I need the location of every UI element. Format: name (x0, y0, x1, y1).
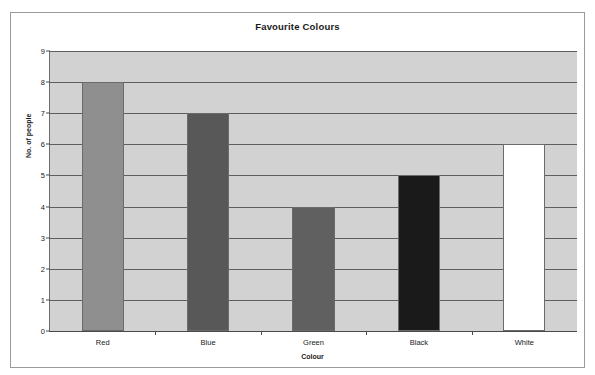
y-axis-tick-label: 5 (41, 171, 45, 180)
bar-white (503, 144, 545, 331)
y-axis-tick-label: 7 (41, 109, 45, 118)
y-axis-title: No. of people (25, 58, 32, 158)
y-axis-tick-label: 9 (41, 47, 45, 56)
bar-black (398, 175, 440, 331)
bar-blue (187, 113, 229, 331)
x-axis-tick-mark (261, 331, 262, 335)
y-axis-tick-label: 6 (41, 140, 45, 149)
x-axis-tick-label-white: White (515, 338, 534, 347)
bar-red (82, 82, 124, 331)
y-axis-tick-label: 8 (41, 78, 45, 87)
x-axis-title: Colour (49, 353, 576, 360)
y-axis-tick-label: 1 (41, 295, 45, 304)
bars-group (50, 51, 577, 331)
x-axis-tick-label-red: Red (96, 338, 110, 347)
chart-title: Favourite Colours (11, 21, 584, 32)
x-axis-tick-label-blue: Blue (201, 338, 216, 347)
bar-green (292, 207, 334, 331)
y-axis-tick-label: 4 (41, 202, 45, 211)
y-axis-tick-label: 0 (41, 327, 45, 336)
plot-area: 0123456789 RedBlueGreenBlackWhite (49, 51, 577, 332)
y-axis-tick-label: 2 (41, 264, 45, 273)
x-axis-tick-mark (155, 331, 156, 335)
x-axis-tick-mark (472, 331, 473, 335)
x-axis-tick-label-black: Black (410, 338, 428, 347)
y-axis-tick-label: 3 (41, 233, 45, 242)
x-axis-tick-label-green: Green (303, 338, 324, 347)
chart-frame: Favourite Colours No. of people 01234567… (10, 12, 585, 368)
x-axis-tick-mark (366, 331, 367, 335)
